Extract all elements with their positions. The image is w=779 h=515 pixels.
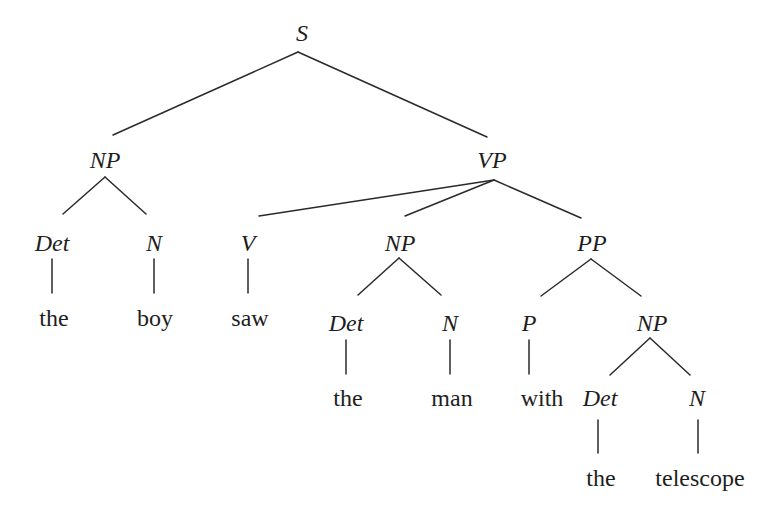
node-pp: PP (577, 231, 606, 255)
word-the: the (39, 306, 68, 330)
word-the: the (333, 386, 362, 410)
node-v: V (241, 231, 256, 255)
edge-s-np (113, 52, 298, 135)
node-n: N (442, 311, 458, 335)
word-telescope: telescope (655, 466, 744, 490)
word-the: the (586, 466, 615, 490)
edge-pp-p (541, 259, 591, 296)
word-with: with (521, 386, 564, 410)
edge-np-det (610, 338, 650, 375)
edge-np-det (63, 177, 105, 214)
edge-np-n (399, 258, 441, 295)
edge-np-det (358, 258, 399, 295)
word-saw: saw (231, 306, 268, 330)
node-vp: VP (477, 148, 506, 172)
node-det: Det (329, 311, 364, 335)
node-np-subject: NP (90, 148, 121, 172)
syntax-tree: S NP VP Det N V NP PP the boy saw Det N … (0, 0, 779, 515)
edge-vp-v (259, 180, 494, 216)
edge-vp-np (405, 180, 494, 216)
node-det: Det (35, 231, 70, 255)
edge-np-n (105, 177, 146, 214)
node-np-prep-object: NP (637, 311, 668, 335)
word-boy: boy (137, 306, 173, 330)
edge-pp-np (591, 259, 641, 296)
word-man: man (431, 386, 472, 410)
edge-np-n (650, 338, 690, 375)
node-s: S (296, 21, 308, 45)
node-n: N (689, 386, 705, 410)
edge-vp-pp (494, 180, 581, 218)
node-p: P (522, 311, 537, 335)
node-np-object: NP (385, 231, 416, 255)
edge-s-vp (298, 52, 487, 137)
tree-edges (0, 0, 779, 515)
node-n: N (146, 231, 162, 255)
node-det: Det (583, 386, 618, 410)
